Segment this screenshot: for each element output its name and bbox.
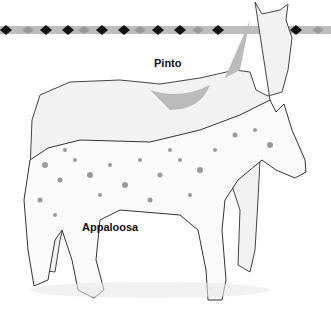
- pinto-label: Pinto: [154, 57, 182, 69]
- horses-drawing: [0, 0, 331, 319]
- appaloosa-label: Appaloosa: [82, 221, 138, 233]
- horse-illustration: Pinto Appaloosa: [0, 0, 331, 319]
